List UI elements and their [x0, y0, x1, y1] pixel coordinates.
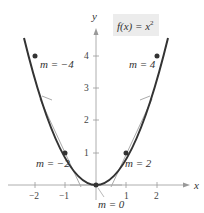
y-axis-label: y: [91, 10, 97, 22]
y-tick-label: 2: [84, 115, 89, 125]
slope-label-pos2: m = 2: [125, 157, 152, 169]
function-title: f(x) = x2: [117, 19, 154, 33]
m0-pointer: [98, 188, 104, 197]
x-tick-label: 2: [154, 191, 159, 201]
x-axis-arrow-icon: [183, 183, 190, 188]
slope-label-pos4: m = 4: [129, 58, 156, 70]
x-tick-label: 1: [124, 191, 129, 201]
y-tick-label: 4: [84, 51, 89, 61]
slope-label-neg4: m = −4: [40, 58, 74, 70]
y-tick-label: 1: [84, 148, 89, 158]
x-tick-label: −1: [59, 191, 69, 201]
y-axis-arrow-icon: [94, 28, 99, 35]
x-tick-label: −2: [29, 191, 39, 201]
slope-label-zero: m = 0: [98, 198, 125, 210]
x-axis-label: x: [193, 179, 199, 191]
parabola-chart: f(x) = x2 x y −2 −1 1 2 1 2 3 4: [0, 0, 204, 213]
y-tick-label: 3: [84, 83, 89, 93]
slope-label-neg2: m = −2: [36, 157, 70, 169]
